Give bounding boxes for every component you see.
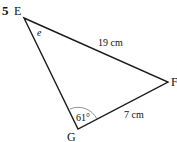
side-label-gf: 7 cm	[124, 109, 144, 120]
vertex-label-g: G	[67, 130, 76, 142]
triangle-diagram: 5 E F G 19 cm 7 cm e 61°	[0, 0, 177, 142]
angle-label-g: 61°	[76, 112, 90, 123]
side-label-ef: 19 cm	[98, 37, 123, 48]
question-number: 5	[2, 3, 9, 18]
vertex-label-e: E	[14, 4, 21, 18]
vertex-label-f: F	[171, 75, 177, 89]
angle-label-e: e	[37, 27, 42, 38]
triangle-efg	[24, 18, 168, 129]
